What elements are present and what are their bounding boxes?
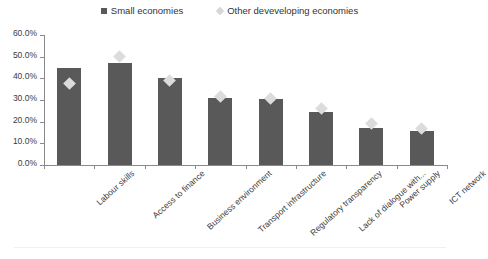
legend-entry-other-developing-economies: Other deveveloping economies	[217, 6, 358, 16]
y-axis-tick-label: 30.0%	[13, 94, 37, 103]
y-axis-tick-label: 10.0%	[13, 137, 37, 146]
x-axis-tick-mark	[296, 165, 297, 169]
x-axis-tick-mark	[145, 165, 146, 169]
y-axis-tick-mark	[40, 35, 44, 36]
y-axis-line	[44, 35, 45, 165]
x-axis-tick-mark	[44, 165, 45, 169]
x-axis-tick-mark	[397, 165, 398, 169]
x-axis-category-label: ICT network	[448, 169, 488, 206]
x-axis-tick-mark	[94, 165, 95, 169]
bar	[108, 63, 132, 165]
y-axis-tick-mark	[40, 143, 44, 144]
y-axis-tick-label: 40.0%	[13, 72, 37, 81]
bar	[359, 128, 383, 165]
data-point-marker	[113, 50, 126, 63]
bar	[208, 98, 232, 165]
y-axis-tick-label: 20.0%	[13, 116, 37, 125]
bar	[410, 131, 434, 165]
y-axis-tick-label: 0.0%	[18, 159, 37, 168]
plot-area: 60.0%50.0%40.0%30.0%20.0%10.0%0.0%	[44, 35, 447, 165]
y-axis-tick-mark	[40, 78, 44, 79]
x-axis-category-label: Access to finance	[151, 169, 206, 220]
x-axis-tick-mark	[346, 165, 347, 169]
x-axis-tick-mark	[246, 165, 247, 169]
diamond-icon	[216, 7, 224, 15]
legend-entry-small-economies: Small economies	[101, 6, 183, 16]
y-axis-tick-mark	[40, 122, 44, 123]
bottom-divider	[14, 247, 446, 248]
bar	[158, 78, 182, 165]
bar	[259, 99, 283, 165]
x-axis-category-label: Labour skills	[95, 169, 136, 207]
chart-legend: Small economies Other deveveloping econo…	[0, 6, 459, 16]
x-axis-tick-mark	[195, 165, 196, 169]
legend-label: Small economies	[111, 6, 183, 16]
x-axis-tick-mark	[447, 165, 448, 169]
square-icon	[101, 8, 107, 14]
y-axis-tick-mark	[40, 100, 44, 101]
legend-label: Other deveveloping economies	[227, 6, 358, 16]
y-axis-tick-label: 50.0%	[13, 51, 37, 60]
y-axis-tick-label: 60.0%	[13, 29, 37, 38]
bar	[309, 112, 333, 165]
y-axis-tick-mark	[40, 57, 44, 58]
